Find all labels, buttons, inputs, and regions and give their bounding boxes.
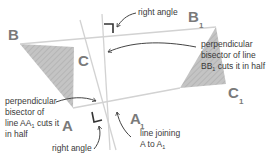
vertex-label-c1: C [228,84,239,101]
svg-text:bisector of line: bisector of line [201,50,256,60]
annotation-bisector-bb1: perpendicular bisector of line BB1 cuts … [201,39,266,72]
annotation-right-angle-top: right angle [138,7,178,17]
line-bb1 [20,27,216,44]
arrow-line-joining [117,112,131,137]
right-angle-mark-bottom [92,112,102,122]
svg-text:perpendicular: perpendicular [201,39,253,49]
svg-text:in half: in half [5,129,28,139]
svg-text:BB1 cuts it in half: BB1 cuts it in half [201,61,266,72]
annotation-bisector-aa1: perpendicular bisector of line AA1 cuts … [5,96,60,139]
svg-text:line joining: line joining [140,128,180,138]
right-angle-mark-top [104,24,113,33]
svg-text:bisector of: bisector of [5,107,45,117]
annotation-line-joining: line joining A to A1 [140,128,180,150]
vertex-label-b1-subscript: 1 [199,21,204,30]
vertex-label-b: B [8,26,19,43]
vertex-label-a: A [62,117,73,134]
vertex-label-b1: B [188,8,199,25]
vertex-label-c1-subscript: 1 [239,97,244,106]
arrow-bisector-bb1 [108,43,196,52]
arrow-right-angle-bottom [94,126,100,149]
diagram-canvas: B C A B 1 C 1 A 1 right angle perpendicu… [0,0,271,162]
annotation-right-angle-bottom: right angle [52,143,92,153]
arrow-bisector-aa1 [56,98,96,102]
perpendicular-bisector-bb1 [102,14,110,150]
perpendicular-bisector-aa1 [80,20,116,150]
svg-text:perpendicular: perpendicular [5,96,57,106]
vertex-label-c: C [78,52,89,69]
svg-text:line AA1 cuts it: line AA1 cuts it [5,118,60,129]
svg-text:A to A1: A to A1 [140,139,165,150]
line-aa1 [73,88,180,108]
arrow-right-angle-top [117,13,136,27]
